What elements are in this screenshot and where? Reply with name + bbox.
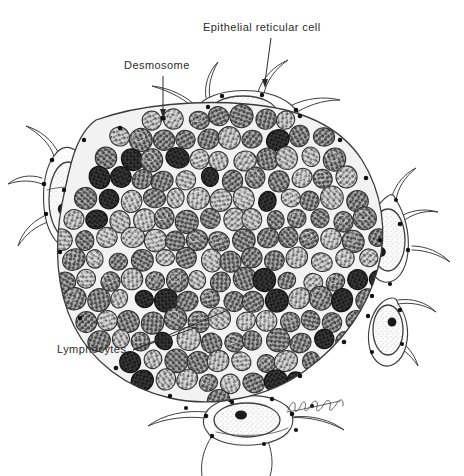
lymphocyte xyxy=(333,211,353,232)
lymphocyte xyxy=(336,166,358,188)
lymphocyte xyxy=(76,311,98,333)
nucleolus xyxy=(235,410,247,419)
label-lymphocytes: Lymphocytes xyxy=(57,344,126,355)
lymphocyte xyxy=(155,249,174,266)
nucleus xyxy=(214,403,280,437)
nucleus xyxy=(373,305,403,355)
label-epithelial-reticular-cell: Epithelial reticular cell xyxy=(203,22,321,33)
lymphocyte xyxy=(359,249,378,267)
label-desmosome: Desmosome xyxy=(124,60,190,71)
lymphocyte xyxy=(74,187,97,210)
histology-illustration xyxy=(0,0,464,476)
figure-root: Epithelial reticular cell Desmosome Lymp… xyxy=(0,0,464,476)
nucleolus xyxy=(388,317,397,326)
